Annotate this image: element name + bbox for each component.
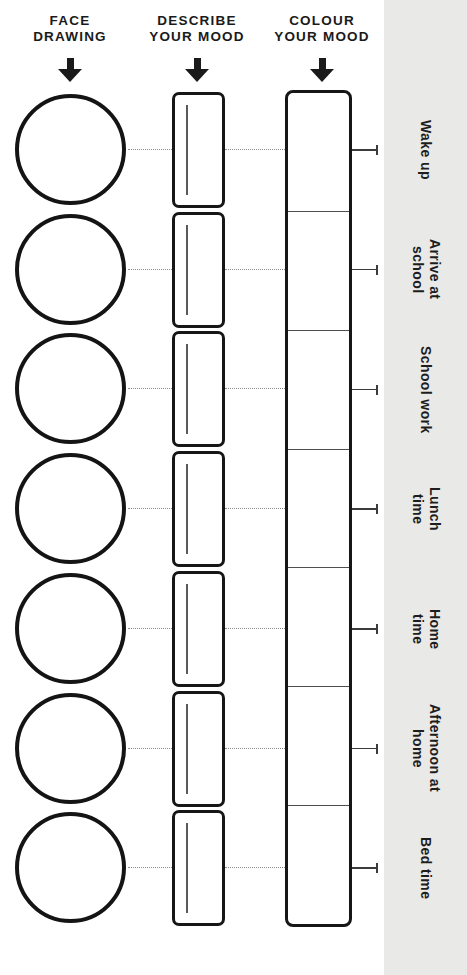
- face-drawing-circle[interactable]: [15, 812, 126, 923]
- colour-mood-cell[interactable]: [288, 568, 349, 687]
- row-label-text: Home time: [409, 609, 443, 650]
- dotted-connector: [225, 748, 285, 749]
- down-arrow-icon: [310, 58, 334, 82]
- colour-mood-cell[interactable]: [288, 212, 349, 331]
- face-drawing-circle[interactable]: [15, 94, 126, 205]
- describe-mood-box[interactable]: [172, 810, 225, 926]
- down-arrow-icon: [58, 58, 82, 82]
- colour-mood-cell[interactable]: [288, 687, 349, 806]
- row-lead-line: [352, 867, 378, 869]
- dotted-connector: [128, 149, 172, 150]
- face-drawing-circle[interactable]: [15, 573, 126, 684]
- colour-mood-cell[interactable]: [288, 806, 349, 924]
- dotted-connector: [128, 388, 172, 389]
- writing-line: [186, 584, 188, 674]
- row-lead-line: [352, 269, 378, 271]
- writing-line: [186, 105, 188, 195]
- dotted-connector: [225, 628, 285, 629]
- mood-worksheet: FACE DRAWING DESCRIBE YOUR MOOD COLOUR Y…: [0, 0, 467, 975]
- dotted-connector: [225, 508, 285, 509]
- row-label-text: Lunch time: [409, 487, 443, 531]
- row-label-bed-time: Bed time: [384, 808, 467, 928]
- dotted-connector: [128, 867, 172, 868]
- writing-line: [186, 225, 188, 315]
- column-header-colour-mood: COLOUR YOUR MOOD: [247, 13, 397, 44]
- row-label-text: Bed time: [417, 837, 434, 899]
- row-label-wake-up: Wake up: [384, 90, 467, 210]
- dotted-connector: [128, 628, 172, 629]
- row-lead-line: [352, 508, 378, 510]
- face-drawing-circle[interactable]: [15, 453, 126, 564]
- dotted-connector: [128, 269, 172, 270]
- row-label-text: Wake up: [417, 120, 434, 180]
- row-label-arrive-at-school: Arrive at school: [384, 210, 467, 330]
- writing-line: [186, 704, 188, 794]
- row-label-text: Afternoon at home: [409, 704, 443, 792]
- colour-mood-column: [285, 90, 352, 927]
- writing-line: [186, 823, 188, 913]
- writing-line: [186, 464, 188, 554]
- dotted-connector: [128, 748, 172, 749]
- describe-mood-box[interactable]: [172, 92, 225, 208]
- dotted-connector: [128, 508, 172, 509]
- describe-mood-box[interactable]: [172, 571, 225, 687]
- row-label-afternoon-at-home: Afternoon at home: [384, 689, 467, 809]
- dotted-connector: [225, 867, 285, 868]
- describe-mood-box[interactable]: [172, 331, 225, 447]
- row-label-text: Arrive at school: [409, 239, 443, 299]
- colour-mood-cell[interactable]: [288, 93, 349, 212]
- row-label-lunch-time: Lunch time: [384, 449, 467, 569]
- face-drawing-circle[interactable]: [15, 214, 126, 325]
- dotted-connector: [225, 388, 285, 389]
- face-drawing-circle[interactable]: [15, 693, 126, 804]
- row-lead-line: [352, 389, 378, 391]
- dotted-connector: [225, 269, 285, 270]
- describe-mood-box[interactable]: [172, 212, 225, 328]
- describe-mood-box[interactable]: [172, 451, 225, 567]
- dotted-connector: [225, 149, 285, 150]
- face-drawing-circle[interactable]: [15, 333, 126, 444]
- row-lead-line: [352, 149, 378, 151]
- down-arrow-icon: [185, 58, 209, 82]
- colour-mood-cell[interactable]: [288, 450, 349, 569]
- row-lead-line: [352, 748, 378, 750]
- row-label-home-time: Home time: [384, 569, 467, 689]
- row-lead-line: [352, 628, 378, 630]
- row-label-text: School work: [417, 346, 434, 434]
- describe-mood-box[interactable]: [172, 691, 225, 807]
- row-label-school-work: School work: [384, 329, 467, 449]
- writing-line: [186, 344, 188, 434]
- colour-mood-cell[interactable]: [288, 331, 349, 450]
